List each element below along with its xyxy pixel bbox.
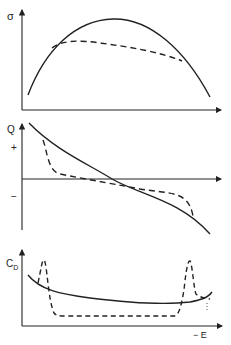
sigma-axis-label: σ: [7, 11, 14, 22]
sigma-solid-curve: [28, 19, 210, 97]
charge-minus-label: −: [11, 192, 17, 202]
capacitance-axis-label: CD: [6, 259, 18, 271]
capacitance-dashed-curve: [38, 260, 210, 316]
diagram-canvas: [0, 0, 231, 345]
capacitance-label-sub: D: [13, 264, 18, 271]
charge-plus-label: +: [11, 143, 17, 153]
potential-axis-label: − E: [193, 331, 207, 340]
sigma-dashed-curve: [52, 41, 182, 61]
charge-axis-label: Q: [7, 125, 15, 135]
capacitance-solid-curve: [28, 275, 212, 303]
